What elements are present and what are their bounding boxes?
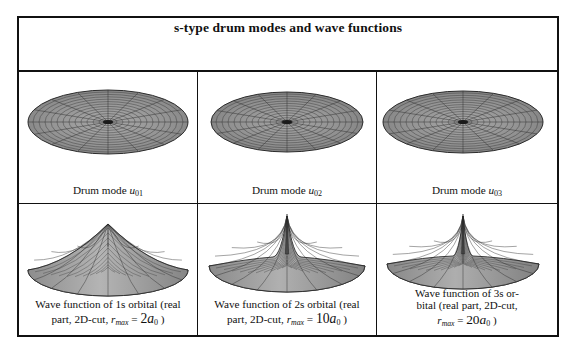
caption-drum-mode-u03: Drum mode u03 <box>377 184 557 203</box>
flat-disk-mesh-icon <box>19 72 197 169</box>
caption-subscript: 02 <box>314 190 322 199</box>
caption-subscript: 01 <box>135 190 143 199</box>
plot-drum-mode-u02 <box>198 72 376 169</box>
page-title: s-type drum modes and wave functions <box>19 18 557 40</box>
plot-wave-function-1s <box>19 204 197 307</box>
table-row: Wave function of 1s orbital (real part, … <box>18 204 558 337</box>
caption-text: Drum mode <box>432 184 489 196</box>
caption-line-1: Wave function of 2s orbital (real <box>202 298 372 311</box>
caption-var-subscript: max <box>115 318 128 327</box>
caption-line-1: Wave function of 3s or- <box>381 287 553 300</box>
caption-line-1: Wave function of 1s orbital (real <box>23 298 193 311</box>
plot-wave-function-2s <box>198 204 376 307</box>
caption-text: part, 2D-cut, <box>51 313 111 325</box>
caption-line-3: rmax = 20a0 ) <box>381 312 553 329</box>
figure-table: s-type drum modes and wave functions <box>17 16 559 337</box>
cell-drum-mode-u01: Drum mode u01 <box>18 71 198 204</box>
caption-equals: = <box>454 314 466 326</box>
table-row: Drum mode u01 <box>18 71 558 204</box>
caption-line-2: part, 2D-cut, rmax = 10a0 ) <box>202 311 372 328</box>
cell-wave-function-1s: Wave function of 1s orbital (real part, … <box>18 204 198 337</box>
caption-wave-function-1s: Wave function of 1s orbital (real part, … <box>19 298 197 332</box>
caption-subscript: 03 <box>494 190 502 199</box>
caption-drum-mode-u02: Drum mode u02 <box>198 184 376 203</box>
table-title-cell: s-type drum modes and wave functions <box>18 17 558 71</box>
cell-drum-mode-u02: Drum mode u02 <box>198 71 377 204</box>
caption-value: 20 <box>466 312 479 327</box>
caption-var-subscript: max <box>442 320 455 329</box>
spike-peak-medium-icon <box>198 204 376 307</box>
caption-close: ) <box>340 313 347 325</box>
caption-line-2: part, 2D-cut, rmax = 2a0 ) <box>23 311 193 328</box>
flat-disk-mesh-icon <box>377 72 557 169</box>
caption-wave-function-2s: Wave function of 2s orbital (real part, … <box>198 298 376 332</box>
caption-drum-mode-u01: Drum mode u01 <box>19 184 197 203</box>
caption-line-2: bital (real part, 2D-cut, <box>381 299 553 312</box>
cell-drum-mode-u03: Drum mode u03 <box>377 71 559 204</box>
flat-disk-mesh-icon <box>198 72 376 169</box>
caption-text: part, 2D-cut, <box>227 313 287 325</box>
caption-text: Drum mode <box>252 184 309 196</box>
caption-close: ) <box>490 314 496 326</box>
caption-wave-function-3s: Wave function of 3s or- bital (real part… <box>377 287 557 333</box>
caption-value: 10 <box>316 311 330 326</box>
caption-equals: = <box>128 313 140 325</box>
plot-drum-mode-u01 <box>19 72 197 169</box>
cone-peak-broad-icon <box>19 204 197 307</box>
figure-page: s-type drum modes and wave functions <box>0 0 570 353</box>
cell-wave-function-3s: Wave function of 3s or- bital (real part… <box>377 204 559 337</box>
cell-wave-function-2s: Wave function of 2s orbital (real part, … <box>198 204 377 337</box>
caption-unit: a <box>147 311 154 326</box>
caption-var-subscript: max <box>291 318 304 327</box>
caption-close: ) <box>158 313 165 325</box>
caption-equals: = <box>304 313 316 325</box>
plot-drum-mode-u03 <box>377 72 557 169</box>
table-header-row: s-type drum modes and wave functions <box>18 17 558 71</box>
caption-text: Drum mode <box>73 184 130 196</box>
